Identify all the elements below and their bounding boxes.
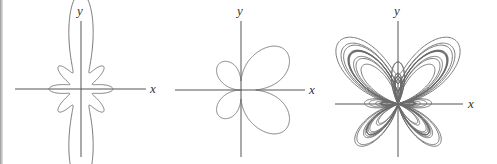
- polar-curves-figure: x y x y x y: [0, 0, 497, 164]
- y-axis-label: y: [392, 3, 400, 18]
- panel-3: x y: [335, 3, 474, 157]
- x-axis-label: x: [308, 82, 315, 97]
- x-axis-label: x: [467, 96, 474, 111]
- panel-2: x y: [175, 3, 315, 157]
- y-axis-label: y: [75, 3, 83, 18]
- x-axis-label: x: [149, 81, 156, 96]
- y-axis-label: y: [235, 3, 243, 18]
- panel-1: x y: [15, 0, 156, 164]
